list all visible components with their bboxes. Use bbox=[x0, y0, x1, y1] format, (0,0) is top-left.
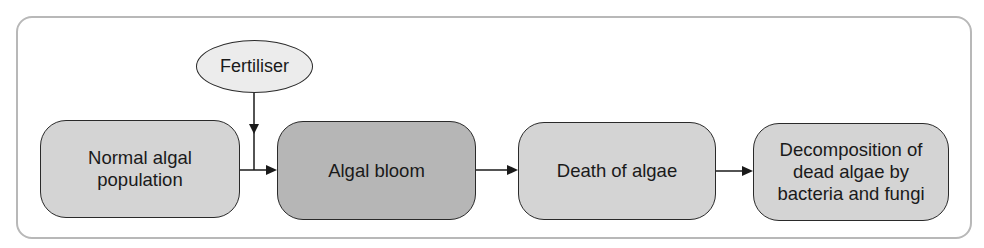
connector-arrows bbox=[0, 0, 984, 248]
arrowhead-down-icon bbox=[249, 124, 259, 134]
arrowhead-right-icon bbox=[742, 166, 753, 176]
arrowhead-right-icon bbox=[507, 165, 518, 175]
arrowhead-right-icon bbox=[266, 165, 277, 175]
